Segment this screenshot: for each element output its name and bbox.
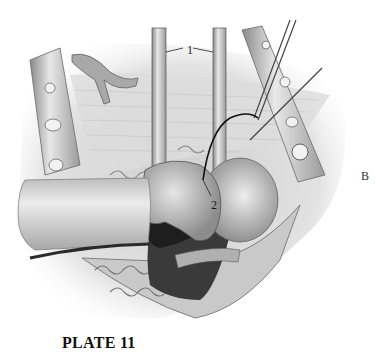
- panel-letter: B: [361, 170, 369, 182]
- horizontal-tube: [18, 178, 151, 250]
- label-2: 2: [211, 199, 217, 211]
- plate-title: PLATE 11: [62, 335, 136, 351]
- plate-figure: 1 2 B PLATE 11: [0, 0, 376, 359]
- label-1: 1: [187, 44, 193, 56]
